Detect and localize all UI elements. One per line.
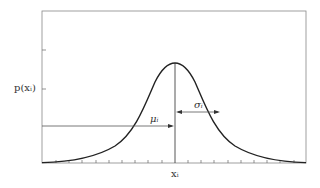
gaussian-curve — [42, 63, 306, 163]
sigma-label: σi — [194, 99, 203, 110]
x-axis-label: xi — [171, 168, 179, 179]
y-axis-label: p(xi) — [14, 82, 36, 93]
gaussian-diagram — [0, 0, 320, 188]
mu-label: μi — [150, 113, 158, 124]
plot-frame — [42, 11, 306, 163]
